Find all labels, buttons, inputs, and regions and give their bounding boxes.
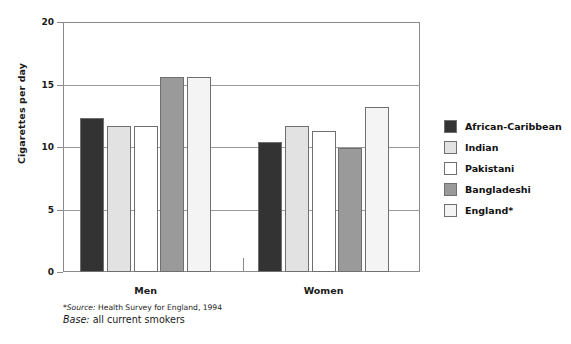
bar [365, 107, 389, 272]
y-axis-tick-label: 5 [48, 205, 54, 215]
footnote-base-label: Base: [63, 314, 90, 325]
legend-label: Bangladeshi [465, 184, 531, 195]
footnote-base: Base: all current smokers [63, 314, 185, 325]
bar [285, 126, 309, 272]
bar [107, 126, 131, 272]
footnote-source: *Source: Health Survey for England, 1994 [63, 303, 222, 312]
bar [187, 77, 211, 272]
plot-area: 05101520 [63, 22, 420, 272]
legend: African-CaribbeanIndianPakistaniBanglade… [444, 116, 562, 221]
x-axis-category-label: Men [134, 285, 157, 296]
bar [312, 131, 336, 272]
legend-swatch [444, 204, 457, 217]
group-separator-tick [243, 258, 244, 272]
legend-label: Pakistani [465, 163, 514, 174]
legend-swatch [444, 162, 457, 175]
y-axis-tick-label: 10 [41, 142, 54, 152]
bar [80, 118, 104, 272]
footnote-source-text: Health Survey for England, 1994 [96, 303, 222, 312]
legend-label: Indian [465, 142, 499, 153]
y-axis-tick-label: 20 [41, 17, 54, 27]
bar [134, 126, 158, 272]
x-axis-category-label: Women [304, 285, 344, 296]
legend-item: Bangladeshi [444, 179, 562, 200]
bar [338, 148, 362, 272]
legend-item: Pakistani [444, 158, 562, 179]
legend-label: England* [465, 205, 513, 216]
legend-item: Indian [444, 137, 562, 158]
legend-item: African-Caribbean [444, 116, 562, 137]
bar-chart: Cigarettes per day 05101520 MenWomen *So… [0, 0, 571, 344]
gridline [63, 85, 420, 86]
y-axis-tick [57, 85, 63, 86]
y-axis-tick [57, 210, 63, 211]
y-axis-tick [57, 272, 63, 273]
footnote-source-label: Source: [67, 303, 96, 312]
bar [160, 77, 184, 272]
legend-swatch [444, 120, 457, 133]
legend-label: African-Caribbean [465, 121, 562, 132]
legend-item: England* [444, 200, 562, 221]
y-axis-tick-label: 15 [41, 80, 54, 90]
y-axis-title: Cigarettes per day [16, 49, 27, 179]
y-axis-tick-label: 0 [48, 267, 54, 277]
legend-swatch [444, 183, 457, 196]
bar [258, 142, 282, 272]
footnote-base-text: all current smokers [90, 314, 185, 325]
legend-swatch [444, 141, 457, 154]
y-axis-tick [57, 147, 63, 148]
y-axis-tick [57, 22, 63, 23]
